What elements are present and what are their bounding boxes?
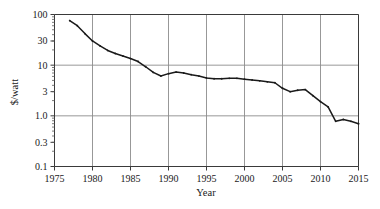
data-point (130, 58, 132, 60)
y-tick-label: 1.0 (35, 110, 48, 121)
x-axis-title: Year (196, 187, 216, 198)
data-point (160, 75, 162, 77)
data-point (152, 72, 154, 74)
y-tick-labels: 0.10.31.031030100 (33, 9, 48, 172)
data-point (190, 74, 192, 76)
y-axis-title: $/watt (9, 79, 20, 105)
data-point (137, 61, 139, 63)
y-tick-label: 30 (38, 35, 48, 46)
data-point (342, 119, 344, 121)
data-point (69, 20, 71, 22)
x-tick-label: 1985 (121, 173, 141, 184)
data-point (304, 89, 306, 91)
data-point (122, 55, 124, 57)
data-point (198, 75, 200, 77)
y-tick-label: 3 (43, 86, 48, 97)
data-point (206, 77, 208, 79)
data-point (114, 53, 116, 55)
grid-lines (55, 15, 359, 167)
data-point (358, 123, 360, 125)
series-line (70, 21, 359, 124)
data-point (259, 80, 261, 82)
x-tick-label: 2015 (349, 173, 369, 184)
data-point (221, 78, 223, 80)
tick-marks (51, 15, 359, 171)
data-point (282, 87, 284, 89)
x-tick-label: 2000 (235, 173, 255, 184)
data-point (107, 50, 109, 52)
data-point (145, 66, 147, 68)
data-point (289, 91, 291, 93)
data-point (244, 78, 246, 80)
data-point (350, 120, 352, 122)
x-tick-label: 1990 (159, 173, 179, 184)
x-tick-label: 1995 (197, 173, 217, 184)
data-point (327, 106, 329, 108)
data-point (236, 77, 238, 79)
data-point (297, 89, 299, 91)
y-tick-label: 10 (38, 60, 48, 71)
chart-container: 0.10.31.031030100 1975198019851990199520… (0, 0, 380, 209)
data-point (266, 81, 268, 83)
x-tick-label: 2010 (311, 173, 331, 184)
data-point (320, 101, 322, 103)
data-point (312, 95, 314, 97)
data-point (92, 40, 94, 42)
y-tick-label: 0.1 (35, 161, 48, 172)
data-point (99, 45, 101, 47)
x-tick-labels: 197519801985199019952000200520102015 (45, 173, 369, 184)
solar-price-chart: 0.10.31.031030100 1975198019851990199520… (0, 0, 380, 209)
data-point (228, 77, 230, 79)
data-point (213, 78, 215, 80)
data-point (274, 82, 276, 84)
data-point (335, 120, 337, 122)
data-point (251, 79, 253, 81)
y-tick-label: 0.3 (35, 137, 48, 148)
data-point (168, 73, 170, 75)
data-point (183, 72, 185, 74)
x-tick-label: 2005 (273, 173, 293, 184)
data-series (69, 20, 360, 125)
x-tick-label: 1975 (45, 173, 65, 184)
y-tick-label: 100 (33, 9, 48, 20)
data-point (76, 25, 78, 27)
data-point (84, 33, 86, 35)
x-tick-label: 1980 (83, 173, 103, 184)
data-point (175, 71, 177, 73)
